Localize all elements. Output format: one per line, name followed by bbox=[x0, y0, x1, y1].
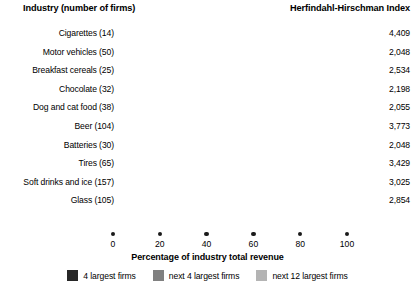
tick-dot-icon bbox=[345, 232, 349, 236]
hhi-value: 3,025 bbox=[389, 177, 410, 187]
bar-track bbox=[113, 66, 347, 79]
legend-item: 4 largest firms bbox=[67, 270, 135, 281]
chart-row: Beer (104)3,773 bbox=[0, 119, 415, 138]
bar-track bbox=[113, 84, 347, 97]
bar-track bbox=[113, 47, 347, 60]
hhi-value: 2,048 bbox=[389, 140, 410, 150]
bar-track bbox=[113, 177, 347, 190]
legend-item: next 12 largest firms bbox=[256, 270, 347, 281]
legend-label: 4 largest firms bbox=[83, 271, 135, 281]
bar-track bbox=[113, 121, 347, 134]
row-label: Beer (104) bbox=[0, 121, 114, 131]
legend-swatch-next-4 bbox=[153, 270, 164, 281]
hhi-value: 4,409 bbox=[389, 28, 410, 38]
hhi-value: 2,854 bbox=[389, 195, 410, 205]
x-axis-tick-label: 80 bbox=[280, 239, 320, 249]
x-axis-title: Percentage of industry total revenue bbox=[0, 252, 415, 262]
bar-track bbox=[113, 29, 347, 42]
row-label: Glass (105) bbox=[0, 195, 114, 205]
tick-dot-icon bbox=[204, 232, 208, 236]
chart-row: Motor vehicles (50)2,048 bbox=[0, 45, 415, 64]
chart-row: Chocolate (32)2,198 bbox=[0, 82, 415, 101]
x-axis-tick-label: 100 bbox=[327, 239, 367, 249]
row-label: Motor vehicles (50) bbox=[0, 47, 114, 57]
industry-column-header: Industry (number of firms) bbox=[23, 3, 135, 13]
tick-dot-icon bbox=[111, 232, 115, 236]
hhi-value: 3,429 bbox=[389, 158, 410, 168]
x-axis-tick-label: 60 bbox=[233, 239, 273, 249]
hhi-value: 2,534 bbox=[389, 65, 410, 75]
chart-row: Cigarettes (14)4,409 bbox=[0, 26, 415, 45]
legend-label: next 12 largest firms bbox=[272, 271, 347, 281]
bar-track bbox=[113, 103, 347, 116]
legend-swatch-next-12 bbox=[256, 270, 267, 281]
tick-dot-icon bbox=[158, 232, 162, 236]
hhi-value: 2,048 bbox=[389, 47, 410, 57]
bar-track bbox=[113, 140, 347, 153]
x-axis-tick-label: 20 bbox=[140, 239, 180, 249]
chart-legend: 4 largest firmsnext 4 largest firmsnext … bbox=[0, 270, 415, 281]
legend-swatch-4-largest bbox=[67, 270, 78, 281]
chart-rows: Cigarettes (14)4,409Motor vehicles (50)2… bbox=[0, 26, 415, 212]
hhi-column-header: Herfindahl-Hirschman Index bbox=[290, 3, 410, 13]
chart-row: Tires (65)3,429 bbox=[0, 156, 415, 175]
x-axis-tick-label: 40 bbox=[187, 239, 227, 249]
legend-item: next 4 largest firms bbox=[153, 270, 240, 281]
row-label: Tires (65) bbox=[0, 158, 114, 168]
row-label: Dog and cat food (38) bbox=[0, 102, 114, 112]
chart-row: Glass (105)2,854 bbox=[0, 193, 415, 212]
chart-row: Batteries (30)2,048 bbox=[0, 138, 415, 157]
row-label: Breakfast cereals (25) bbox=[0, 65, 114, 75]
hhi-value: 3,773 bbox=[389, 121, 410, 131]
row-label: Soft drinks and ice (157) bbox=[0, 177, 114, 187]
concentration-bar-chart: Industry (number of firms) Herfindahl-Hi… bbox=[0, 0, 415, 294]
chart-row: Dog and cat food (38)2,055 bbox=[0, 100, 415, 119]
hhi-value: 2,198 bbox=[389, 84, 410, 94]
row-label: Batteries (30) bbox=[0, 140, 114, 150]
hhi-value: 2,055 bbox=[389, 102, 410, 112]
tick-dot-icon bbox=[251, 232, 255, 236]
legend-label: next 4 largest firms bbox=[169, 271, 240, 281]
x-axis-tick-label: 0 bbox=[93, 239, 133, 249]
bar-track bbox=[113, 159, 347, 172]
tick-dot-icon bbox=[298, 232, 302, 236]
chart-row: Breakfast cereals (25)2,534 bbox=[0, 63, 415, 82]
chart-row: Soft drinks and ice (157)3,025 bbox=[0, 175, 415, 194]
row-label: Cigarettes (14) bbox=[0, 28, 114, 38]
bar-track bbox=[113, 196, 347, 209]
row-label: Chocolate (32) bbox=[0, 84, 114, 94]
